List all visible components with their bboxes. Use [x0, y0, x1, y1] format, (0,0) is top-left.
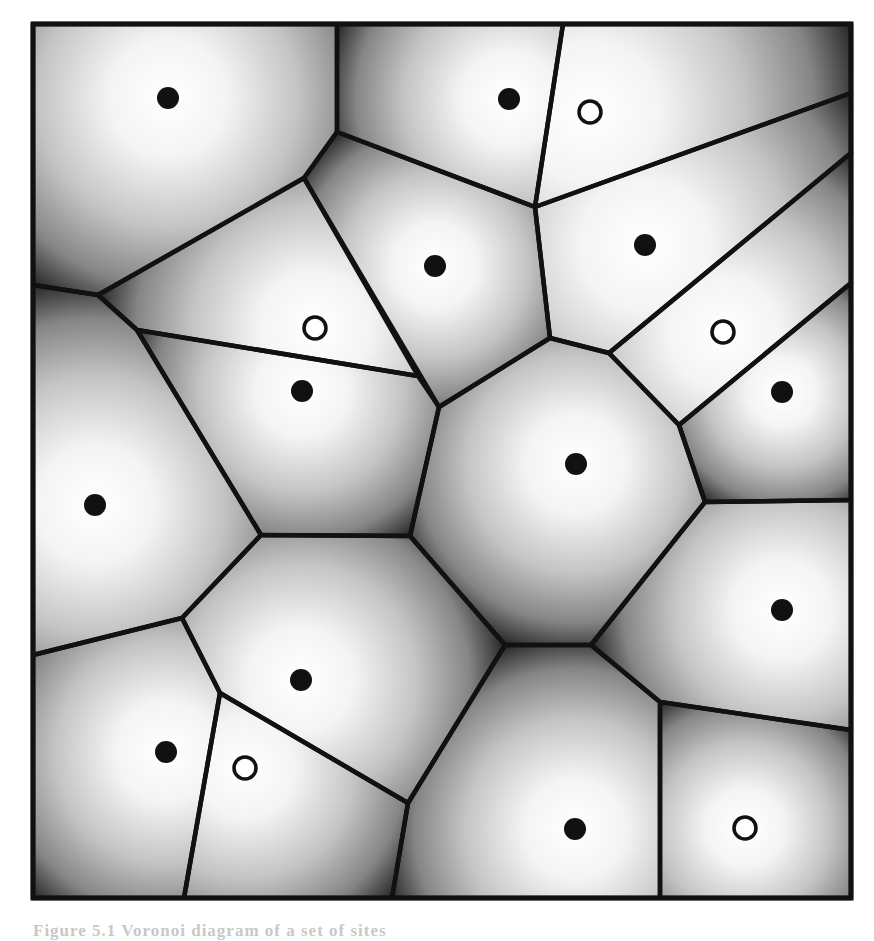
hollow-site-dot [234, 757, 256, 779]
filled-site-dot [424, 255, 446, 277]
filled-site-dot [155, 741, 177, 763]
filled-site-dot [634, 234, 656, 256]
filled-site-dot [84, 494, 106, 516]
filled-site-dot [290, 669, 312, 691]
filled-site-dot [565, 453, 587, 475]
filled-site-dot [771, 381, 793, 403]
voronoi-cell [660, 702, 851, 898]
filled-site-dot [564, 818, 586, 840]
filled-site-dot [498, 88, 520, 110]
voronoi-cells [33, 24, 851, 898]
filled-site-dot [157, 87, 179, 109]
hollow-site-dot [734, 817, 756, 839]
filled-site-dot [771, 599, 793, 621]
hollow-site-dot [579, 101, 601, 123]
hollow-site-dot [712, 321, 734, 343]
filled-site-dot [291, 380, 313, 402]
figure-caption: Figure 5.1 Voronoi diagram of a set of s… [33, 921, 833, 941]
hollow-site-dot [304, 317, 326, 339]
